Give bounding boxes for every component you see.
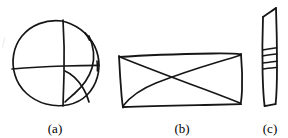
top-right-tick xyxy=(85,33,90,40)
quad-diagonal-tl-br xyxy=(120,57,240,103)
strip-left-edge xyxy=(262,17,264,106)
figure-panel: (a) (b) xyxy=(0,0,288,138)
strip-band-1 xyxy=(263,48,277,50)
vertical-chord xyxy=(63,20,64,106)
subfigure-a: (a) xyxy=(0,0,110,138)
quadrilateral-with-diagonals-sketch xyxy=(108,0,256,120)
quad-right-edge xyxy=(241,54,243,104)
horizontal-chord xyxy=(12,65,99,69)
strip-band-2 xyxy=(263,54,277,56)
quad-top-edge xyxy=(119,53,241,57)
banded-strip-sketch xyxy=(252,0,288,120)
subfigure-b-caption: (b) xyxy=(108,122,256,136)
strip-right-edge xyxy=(276,8,277,104)
subfigure-a-caption: (a) xyxy=(0,122,110,136)
quad-bottom-edge xyxy=(123,104,241,107)
strip-band-4 xyxy=(263,67,277,69)
strip-top-edge xyxy=(263,8,276,17)
subfigure-b: (b) xyxy=(108,0,256,138)
subfigure-c: (c) xyxy=(252,0,288,138)
strip-bottom-edge xyxy=(265,104,276,106)
circle-with-chords-sketch xyxy=(0,0,110,120)
quad-left-edge xyxy=(119,56,123,108)
strip-band-3 xyxy=(263,61,277,63)
subfigure-c-caption: (c) xyxy=(252,122,288,136)
